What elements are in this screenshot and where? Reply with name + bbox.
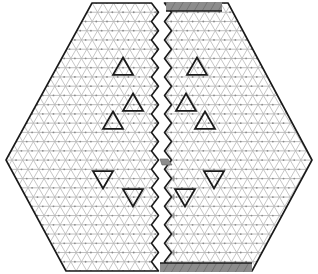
- board-svg: [0, 0, 318, 274]
- middle-notch: [160, 159, 172, 165]
- seam-mark: [172, 213, 174, 219]
- seam-mark: [172, 231, 174, 237]
- bottom-right-strip: [160, 263, 252, 272]
- top-right-strip: [166, 2, 222, 11]
- seam-mark: [172, 250, 174, 256]
- hex-board-figure: [0, 0, 318, 274]
- seam-mark: [172, 194, 174, 200]
- seam-mark: [172, 176, 174, 182]
